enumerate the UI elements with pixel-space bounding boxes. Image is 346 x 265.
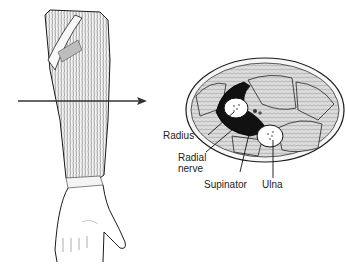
label-radial-nerve-line2: nerve <box>178 163 203 174</box>
cross-section <box>186 58 344 162</box>
label-supinator: Supinator <box>204 179 247 190</box>
anatomy-figure: Radius Radial nerve Supinator Ulna <box>0 0 346 265</box>
forearm-drawing <box>45 10 125 262</box>
label-radius: Radius <box>163 130 194 141</box>
label-ulna: Ulna <box>262 179 283 190</box>
label-radial-nerve-line1: Radial <box>178 152 206 163</box>
